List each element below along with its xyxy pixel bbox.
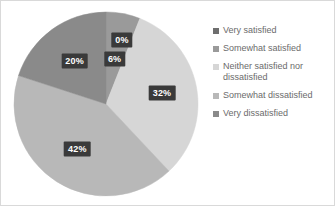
legend-item-label: Very dissatisfied xyxy=(223,108,288,119)
legend-swatch-icon xyxy=(213,46,219,52)
data-label-somewhat-satisfied: 6% xyxy=(104,51,125,66)
legend-item-somewhat-dissatisfied[interactable]: Somewhat dissatisfied xyxy=(213,90,329,101)
legend-swatch-icon xyxy=(213,111,219,117)
chart-legend: Very satisfied Somewhat satisfied Neithe… xyxy=(213,25,329,126)
legend-swatch-icon xyxy=(213,28,219,34)
chart-frame: 0% 6% 32% 42% 20% Very satisfied Somewha… xyxy=(0,0,335,206)
pie-chart-plot-area: 0% 6% 32% 42% 20% xyxy=(13,9,208,201)
legend-item-label: Somewhat satisfied xyxy=(223,43,301,54)
legend-item-label: Somewhat dissatisfied xyxy=(223,90,313,101)
data-label-somewhat-dissatisfied: 42% xyxy=(64,142,91,157)
legend-item-label: Very satisfied xyxy=(223,25,277,36)
legend-swatch-icon xyxy=(213,93,219,99)
legend-item-label: Neither satisfied nor dissatisfied xyxy=(223,61,329,83)
data-label-very-satisfied: 0% xyxy=(111,33,132,48)
legend-item-somewhat-satisfied[interactable]: Somewhat satisfied xyxy=(213,43,329,54)
pie-slices xyxy=(14,12,198,196)
legend-swatch-icon xyxy=(213,64,219,70)
legend-item-very-satisfied[interactable]: Very satisfied xyxy=(213,25,329,36)
legend-item-very-dissatisfied[interactable]: Very dissatisfied xyxy=(213,108,329,119)
legend-item-neither-satisfied-nor-dissatisfied[interactable]: Neither satisfied nor dissatisfied xyxy=(213,61,329,83)
data-label-neither-satisfied-nor-dissatisfied: 32% xyxy=(149,86,176,101)
data-label-very-dissatisfied: 20% xyxy=(61,53,88,68)
